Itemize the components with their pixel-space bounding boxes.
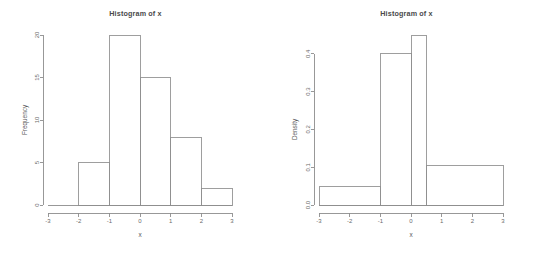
x-axis-tick-label: -1 (107, 218, 113, 224)
histogram-bar (79, 163, 110, 206)
histogram-bar (109, 35, 140, 205)
figure-canvas: Histogram of x 05101520Frequency-3-2-101… (0, 0, 542, 253)
x-axis-tick-label: -3 (45, 218, 51, 224)
x-axis-tick-label: -2 (76, 218, 82, 224)
y-axis-tick-label: 0.0 (305, 200, 311, 209)
histogram-bar (201, 188, 232, 205)
plot-area-right: 0.00.10.20.30.4Density-3-2-10123x (271, 0, 542, 253)
x-axis-title: x (138, 231, 142, 238)
histogram-bar (171, 137, 202, 205)
x-axis-tick-label: 3 (230, 218, 234, 224)
x-axis-tick-label: 1 (169, 218, 173, 224)
y-axis-tick-label: 0.2 (305, 125, 311, 134)
x-axis-title: x (409, 231, 413, 238)
y-axis-title: Density (292, 118, 300, 140)
plot-area-left: 05101520Frequency-3-2-10123x (0, 0, 271, 253)
x-axis-tick-label: -3 (316, 218, 322, 224)
y-axis-tick-label: 0.3 (305, 87, 311, 96)
histogram-bar (426, 165, 503, 205)
y-axis-tick-label: 5 (34, 160, 40, 164)
x-axis-tick-label: 0 (138, 218, 142, 224)
x-axis-tick-label: -2 (347, 218, 353, 224)
y-axis-tick-label: 0.1 (305, 162, 311, 171)
x-axis-tick-label: 1 (440, 218, 444, 224)
histogram-bar (411, 35, 426, 205)
x-axis-tick-label: 2 (200, 218, 204, 224)
histogram-panel-density: Histogram of x 0.00.10.20.30.4Density-3-… (271, 0, 542, 253)
y-axis-tick-label: 0.4 (305, 49, 311, 58)
histogram-bar (319, 186, 380, 205)
y-axis-tick-label: 10 (34, 116, 40, 123)
x-axis-tick-label: 2 (471, 218, 475, 224)
y-axis-title: Frequency (21, 104, 29, 135)
histogram-bar (140, 78, 171, 206)
y-axis-tick-label: 20 (34, 31, 40, 38)
histogram-panel-frequency: Histogram of x 05101520Frequency-3-2-101… (0, 0, 271, 253)
y-axis-tick-label: 15 (34, 74, 40, 81)
x-axis-tick-label: 3 (501, 218, 505, 224)
x-axis-tick-label: 0 (409, 218, 413, 224)
x-axis-tick-label: -1 (378, 218, 384, 224)
y-axis-tick-label: 0 (34, 203, 40, 207)
histogram-bar (380, 54, 411, 205)
